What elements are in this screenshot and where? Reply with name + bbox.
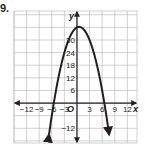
- axes: [15, 12, 136, 142]
- parabola-graph: −12−9−6−336912−12612182430Oxy: [0, 0, 145, 148]
- svg-text:O: O: [67, 104, 74, 114]
- svg-text:−9: −9: [35, 105, 45, 114]
- grid-lines: [14, 11, 137, 143]
- svg-text:−12: −12: [61, 124, 75, 133]
- parabola-curve: [49, 27, 109, 135]
- svg-text:6: 6: [71, 86, 76, 95]
- svg-text:9: 9: [113, 105, 118, 114]
- svg-text:18: 18: [66, 61, 75, 70]
- svg-text:24: 24: [66, 49, 75, 58]
- svg-text:x: x: [132, 104, 139, 114]
- svg-text:12: 12: [123, 105, 132, 114]
- svg-text:3: 3: [87, 105, 92, 114]
- tick-labels: −12−9−6−336912−12612182430Oxy: [20, 11, 139, 133]
- svg-text:12: 12: [66, 74, 75, 83]
- svg-text:−12: −12: [20, 105, 34, 114]
- svg-text:y: y: [68, 11, 75, 21]
